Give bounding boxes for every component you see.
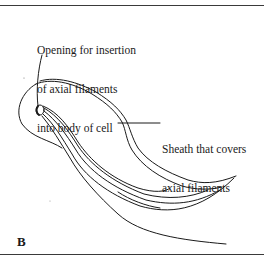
- sheath-label: Sheath that covers axial filaments: [162, 117, 246, 221]
- diagram-figure: Opening for insertion of axial filaments…: [0, 0, 264, 262]
- speck: [49, 200, 50, 201]
- sheath-label-line-2: axial filaments: [162, 182, 246, 195]
- sheath-label-line-1: Sheath that covers: [162, 143, 246, 156]
- opening-label-line-2: of axial filaments: [37, 83, 136, 96]
- opening-label-line-1: Opening for insertion: [37, 44, 136, 57]
- speck: [23, 77, 24, 78]
- opening-label: Opening for insertion of axial filaments…: [37, 18, 136, 161]
- opening-label-line-3: into body of cell: [37, 122, 136, 135]
- panel-label: B: [17, 234, 26, 250]
